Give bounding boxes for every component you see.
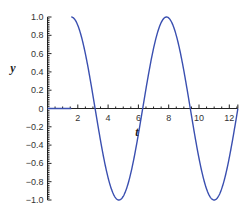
y-tick-label: −0.6 xyxy=(26,158,44,168)
y-tick-label: −0.8 xyxy=(26,177,44,187)
x-tick-label: 12 xyxy=(224,113,234,123)
x-tick-label: 4 xyxy=(106,113,111,123)
y-tick-label: −0.4 xyxy=(26,140,44,150)
y-tick-label: 0.4 xyxy=(31,67,44,77)
y-tick-label: 0.8 xyxy=(31,30,44,40)
y-tick-label: 0.6 xyxy=(31,49,44,59)
x-tick-label: 10 xyxy=(194,113,204,123)
y-tick-label: −1.0 xyxy=(26,195,44,205)
y-axis-label: y xyxy=(8,61,16,75)
x-tick-label: 8 xyxy=(166,113,171,123)
line-chart: 1.00.80.60.40.20−0.2−0.4−0.6−0.8−1.02468… xyxy=(0,0,245,214)
x-tick-label: 2 xyxy=(75,113,80,123)
y-tick-label: 1.0 xyxy=(31,12,44,22)
y-tick-label: 0.2 xyxy=(31,85,44,95)
y-tick-label: 0 xyxy=(38,104,43,114)
y-tick-label: −0.2 xyxy=(26,122,44,132)
